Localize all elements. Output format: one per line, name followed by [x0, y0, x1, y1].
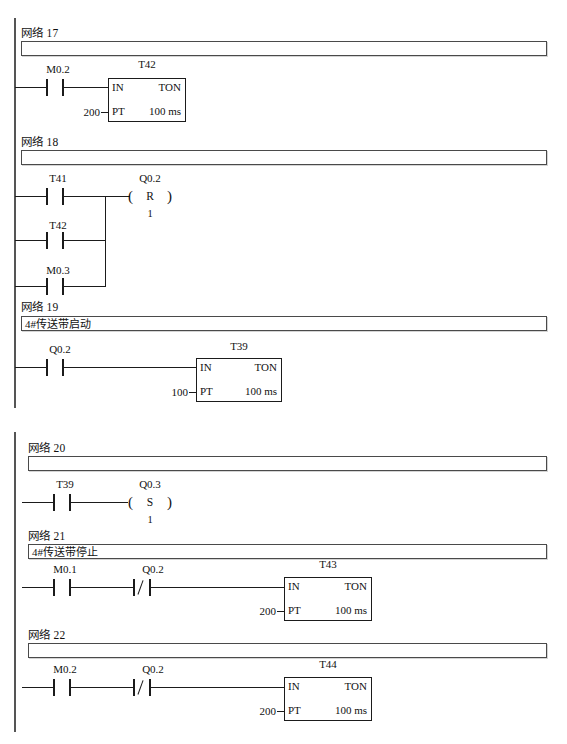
contact-m0-2-n17[interactable]	[46, 79, 64, 96]
network-label-21: 网络 21	[28, 530, 65, 542]
timer-name-t43: T43	[284, 558, 372, 570]
timer-in-label-t43: IN	[288, 580, 300, 593]
contact-m0-3-n18[interactable]	[46, 278, 64, 295]
rung-wire-n18-d	[64, 240, 106, 241]
timer-pt-label-t39: PT	[200, 385, 213, 398]
contact-q0-2-nc-n21[interactable]	[133, 579, 151, 596]
coil-count-n18: 1	[128, 208, 172, 219]
timer-pt-label-t43: PT	[288, 604, 301, 617]
rung-wire-n17-b	[64, 87, 109, 88]
network-header-bar-20	[28, 456, 547, 471]
contact-label-m0-2-n22: M0.2	[45, 663, 85, 675]
timer-name-t39: T39	[196, 340, 282, 352]
contact-m0-1-n21[interactable]	[53, 579, 71, 596]
contact-label-m0-2-n17: M0.2	[38, 63, 78, 75]
contact-q0-2-n19[interactable]	[46, 359, 64, 376]
rung-wire-n18-f	[64, 286, 106, 287]
coil-paren-right-n18: )	[167, 186, 172, 206]
contact-label-q0-2-n19: Q0.2	[38, 343, 82, 355]
network-header-bar-21: 4#传送带停止	[28, 544, 547, 559]
rung-wire-n19-b	[64, 367, 197, 368]
contact-label-q0-2-n21: Q0.2	[131, 563, 175, 575]
timer-name-t44: T44	[284, 658, 372, 670]
timer-pt-connector-t39	[189, 392, 196, 393]
power-rail-lower	[14, 432, 16, 732]
timer-in-label-t39: IN	[200, 361, 212, 374]
timer-block-t43[interactable]: IN TON PT 100 ms	[284, 577, 372, 621]
rung-wire-n22-c	[151, 687, 285, 688]
rung-wire-n18-a	[15, 196, 46, 197]
network-header-bar-18	[21, 150, 547, 165]
timer-pt-value-t43: 200	[234, 605, 276, 617]
contact-t42-n18[interactable]	[46, 232, 64, 249]
power-rail-upper	[14, 18, 16, 408]
timer-pt-connector-t44	[277, 711, 284, 712]
branch-connector-n18	[105, 196, 106, 287]
coil-op-n20: S	[128, 492, 172, 512]
rung-wire-n20-b	[71, 502, 128, 503]
timer-timebase-t44: 100 ms	[335, 704, 367, 717]
coil-paren-right-n20: )	[167, 492, 172, 512]
timer-block-t39[interactable]: IN TON PT 100 ms	[196, 358, 282, 402]
rung-wire-n21-a	[22, 587, 53, 588]
timer-pt-connector-t42	[101, 112, 108, 113]
network-label-22: 网络 22	[28, 629, 65, 641]
timer-timebase-t42: 100 ms	[149, 105, 181, 118]
timer-mode-t39: TON	[255, 361, 277, 374]
rung-wire-n18-b	[64, 196, 130, 197]
contact-label-m0-3-n18: M0.3	[38, 264, 78, 276]
timer-pt-value-t44: 200	[234, 705, 276, 717]
timer-in-label-t44: IN	[288, 680, 300, 693]
coil-op-n18: R	[128, 186, 172, 206]
coil-label-q0-3-n20: Q0.3	[128, 478, 172, 490]
timer-pt-connector-t43	[277, 611, 284, 612]
network-comment-19: 4#传送带启动	[25, 317, 91, 331]
timer-mode-t44: TON	[345, 680, 367, 693]
contact-t39-n20[interactable]	[53, 494, 71, 511]
network-label-20: 网络 20	[28, 442, 65, 454]
rung-wire-n18-e	[15, 286, 46, 287]
timer-pt-value-t42: 200	[58, 106, 100, 118]
timer-mode-t42: TON	[159, 81, 181, 94]
contact-m0-2-n22[interactable]	[53, 679, 71, 696]
contact-label-t42-n18: T42	[38, 219, 78, 231]
network-label-19: 网络 19	[21, 301, 58, 313]
rung-wire-n22-a	[22, 687, 53, 688]
coil-count-n20: 1	[128, 514, 172, 525]
timer-block-t44[interactable]: IN TON PT 100 ms	[284, 677, 372, 721]
coil-set-q0-3-n20[interactable]: ( S )	[128, 492, 172, 512]
coil-label-q0-2-n18: Q0.2	[128, 172, 172, 184]
rung-wire-n21-b	[71, 587, 133, 588]
timer-timebase-t39: 100 ms	[245, 385, 277, 398]
rung-wire-n21-c	[151, 587, 285, 588]
rung-wire-n17-a	[15, 87, 46, 88]
network-comment-21: 4#传送带停止	[32, 545, 98, 559]
timer-mode-t43: TON	[345, 580, 367, 593]
timer-pt-label-t44: PT	[288, 704, 301, 717]
contact-q0-2-nc-n22[interactable]	[133, 679, 151, 696]
timer-name-t42: T42	[108, 58, 186, 70]
coil-reset-q0-2-n18[interactable]: ( R )	[128, 186, 172, 206]
network-header-bar-19: 4#传送带启动	[21, 316, 547, 331]
contact-label-q0-2-n22: Q0.2	[131, 663, 175, 675]
contact-label-m0-1-n21: M0.1	[45, 563, 85, 575]
ladder-program-page: 网络 17 M0.2 T42 IN TON PT 100 ms 200 网络 1…	[0, 0, 567, 744]
timer-pt-value-t39: 100	[146, 386, 188, 398]
contact-label-t39-n20: T39	[45, 478, 85, 490]
timer-block-t42[interactable]: IN TON PT 100 ms	[108, 78, 186, 122]
timer-in-label-t42: IN	[112, 81, 124, 94]
contact-label-t41-n18: T41	[38, 172, 78, 184]
rung-wire-n20-a	[22, 502, 53, 503]
network-label-18: 网络 18	[21, 136, 58, 148]
contact-t41-n18[interactable]	[46, 188, 64, 205]
rung-wire-n22-b	[71, 687, 133, 688]
network-label-17: 网络 17	[21, 27, 58, 39]
rung-wire-n18-c	[15, 240, 46, 241]
timer-pt-label-t42: PT	[112, 105, 125, 118]
network-header-bar-22	[28, 643, 547, 658]
rung-wire-n19-a	[15, 367, 46, 368]
network-header-bar-17	[21, 41, 547, 56]
timer-timebase-t43: 100 ms	[335, 604, 367, 617]
